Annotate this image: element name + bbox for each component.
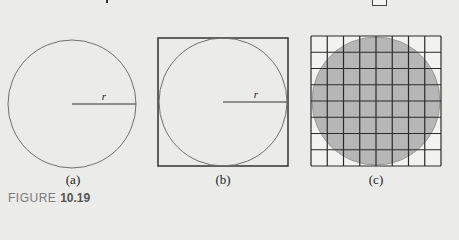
panel-c-drawing bbox=[311, 36, 441, 166]
panel-a-drawing: r bbox=[8, 40, 136, 168]
panel-label-a: (a) bbox=[66, 172, 80, 188]
caption-number: 10.19 bbox=[60, 191, 90, 205]
figure-caption: FIGURE 10.19 bbox=[8, 191, 90, 205]
radius-label-b: r bbox=[254, 88, 259, 100]
panel-b-drawing: r bbox=[158, 38, 288, 166]
panel-label-b: (b) bbox=[215, 172, 230, 188]
caption-prefix: FIGURE bbox=[8, 191, 56, 205]
radius-label-a: r bbox=[102, 90, 107, 102]
panel-label-c: (c) bbox=[369, 172, 383, 188]
